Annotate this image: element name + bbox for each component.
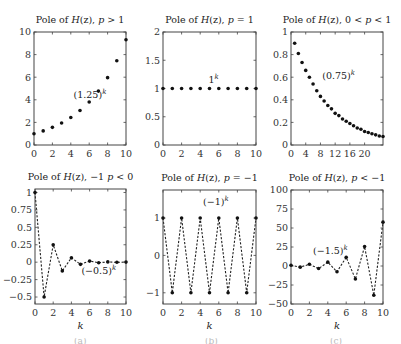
x-tick-label: 6	[87, 307, 93, 318]
x-tick-label: 8	[105, 148, 111, 159]
data-point	[254, 216, 258, 220]
x-tick-label: 2	[49, 148, 55, 159]
data-point	[171, 87, 175, 91]
data-point	[300, 61, 304, 65]
x-tick-label: 10	[250, 148, 262, 159]
caption-fragment: (a)	[74, 338, 86, 344]
data-point	[297, 52, 301, 56]
data-point	[88, 259, 92, 263]
data-point	[372, 293, 376, 297]
data-point	[198, 87, 202, 91]
data-point	[370, 132, 374, 136]
data-point	[106, 76, 110, 80]
data-point	[217, 216, 221, 220]
data-point	[97, 261, 101, 265]
y-tick-label: 0.75	[11, 204, 32, 215]
series-annotation: 1k	[209, 73, 219, 85]
data-point	[333, 112, 337, 116]
data-point	[326, 104, 330, 108]
x-tick-label: 8	[234, 307, 240, 318]
data-point	[355, 126, 359, 130]
x-tick-label: 6	[216, 307, 222, 318]
y-tick-label: 4	[25, 94, 31, 105]
data-point	[51, 126, 55, 130]
axes-frame	[35, 189, 126, 304]
data-point	[326, 260, 330, 264]
data-point	[381, 220, 385, 224]
y-tick-label: −1	[146, 287, 160, 298]
data-point	[217, 87, 221, 91]
x-tick-label: 16	[344, 148, 356, 159]
x-tick-label: 4	[303, 148, 309, 159]
x-tick-label: 10	[377, 307, 389, 318]
data-point	[378, 134, 382, 138]
data-point	[41, 129, 45, 133]
data-point	[70, 256, 74, 260]
data-point	[69, 116, 73, 120]
data-point	[359, 127, 363, 131]
y-tick-label: 0.5	[17, 222, 32, 233]
data-point	[236, 216, 240, 220]
y-tick-label: 1	[26, 187, 32, 198]
clipped-caption: (a) (b) (c)	[0, 338, 401, 344]
data-point	[78, 109, 82, 113]
data-point	[236, 87, 240, 91]
subplot-title: Pole of H(z), p = 1	[165, 14, 254, 25]
x-tick-label: 6	[216, 148, 222, 159]
data-point	[161, 87, 165, 91]
x-tick-label: 0	[160, 307, 166, 318]
y-tick-label: 0.8	[273, 49, 288, 60]
subplot-title: Pole of H(z), p = −1	[161, 172, 258, 183]
dashed-series-line	[35, 192, 126, 297]
x-tick-label: 4	[197, 307, 203, 318]
x-tick-label: 12	[329, 148, 341, 159]
x-tick-label: 10	[120, 148, 132, 159]
y-tick-label: 1	[154, 212, 160, 223]
data-point	[381, 135, 385, 139]
data-point	[308, 75, 312, 79]
caption-fragment: (c)	[330, 338, 342, 344]
y-tick-label: 2	[25, 117, 31, 128]
y-tick-label: 1	[154, 83, 160, 94]
data-point	[124, 38, 128, 42]
y-tick-label: 0	[282, 139, 288, 150]
y-tick-label: 1	[282, 26, 288, 37]
data-point	[308, 262, 312, 266]
y-tick-label: 1.5	[145, 55, 160, 66]
x-tick-label: 2	[50, 307, 56, 318]
data-point	[298, 265, 302, 269]
y-tick-label: 0.25	[11, 239, 32, 250]
y-tick-label: −25	[268, 279, 288, 290]
data-point	[254, 87, 258, 91]
data-point	[354, 277, 358, 281]
x-tick-label: 4	[68, 148, 74, 159]
data-point	[330, 107, 334, 111]
data-point	[315, 89, 319, 93]
y-tick-label: 6	[25, 72, 31, 83]
x-tick-label: 20	[359, 148, 371, 159]
subplot-2: Pole of H(z), p = 1024681000.511.521k	[145, 14, 262, 159]
x-tick-label: 2	[179, 307, 185, 318]
y-tick-label: −0.25	[3, 274, 32, 285]
data-point	[226, 87, 230, 91]
x-tick-label: 0	[32, 307, 38, 318]
subplot-5: Pole of H(z), p = −10246810−101(−1)kk	[146, 172, 262, 331]
data-point	[115, 59, 119, 63]
data-point	[33, 191, 37, 195]
data-point	[304, 69, 308, 73]
y-tick-label: 0	[154, 139, 160, 150]
y-tick-label: 0.2	[273, 117, 288, 128]
data-point	[42, 295, 46, 299]
x-tick-label: 2	[306, 307, 312, 318]
dashed-series-line	[163, 218, 256, 293]
y-tick-label: 25	[276, 241, 288, 252]
x-tick-label: 8	[234, 148, 240, 159]
subplot-title: Pole of H(z), −1 p < 0	[28, 171, 134, 182]
y-tick-label: 100	[270, 184, 288, 195]
data-point	[32, 132, 36, 136]
data-point	[374, 133, 378, 137]
y-tick-label: −50	[268, 298, 288, 309]
y-tick-label: 0	[25, 139, 31, 150]
data-point	[366, 131, 370, 135]
data-point	[363, 130, 367, 134]
